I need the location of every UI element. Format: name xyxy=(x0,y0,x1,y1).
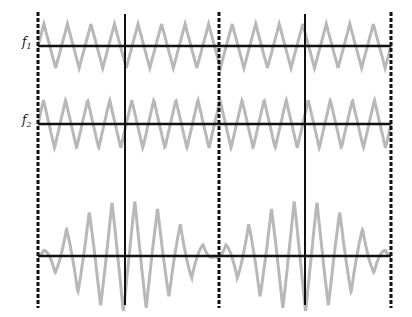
label-f2: f2 xyxy=(22,114,32,129)
label-f1: f1 xyxy=(22,36,32,51)
label-f2-sub: 2 xyxy=(26,120,31,129)
label-f1-sub: 1 xyxy=(26,42,31,51)
beat-diagram xyxy=(0,0,412,317)
wave-group xyxy=(38,24,391,311)
axis-group xyxy=(38,12,391,308)
